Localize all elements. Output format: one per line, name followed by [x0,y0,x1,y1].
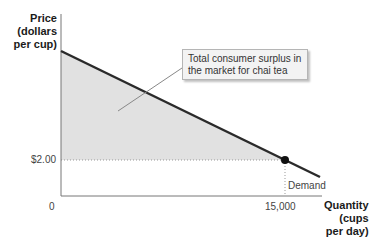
demand-curve-label: Demand [288,180,326,191]
y-axis-title: Price (dollars per cup) [14,12,57,51]
x-axis-title-line: per day) [324,225,369,238]
y-axis-title-line: Price [14,12,57,25]
market-point [281,156,289,164]
origin-label: 0 [49,201,55,212]
y-tick-price: $2.00 [31,154,56,165]
x-axis-title-line: (cups [324,212,369,225]
callout-text-line: the market for chai tea [188,65,302,77]
callout-text-line: Total consumer surplus in [188,53,302,65]
x-tick-quantity: 15,000 [265,201,296,212]
y-axis-title-line: per cup) [14,38,57,51]
x-axis-title: Quantity (cups per day) [324,199,369,238]
y-axis-title-line: (dollars [14,25,57,38]
x-axis-title-line: Quantity [324,199,369,212]
consumer-surplus-callout: Total consumer surplus in the market for… [182,49,308,80]
